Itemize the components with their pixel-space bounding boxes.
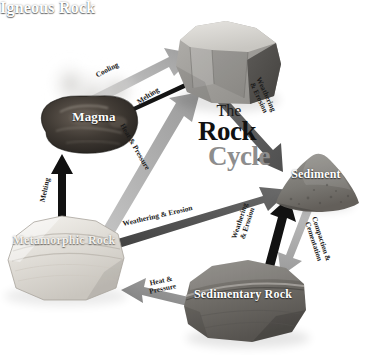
node-magma	[41, 57, 140, 153]
node-layer	[0, 0, 369, 355]
node-metamorphic-rock	[4, 216, 128, 306]
rock-cycle-diagram: Igneous Rock Magma Sediment Metamorphic …	[0, 0, 369, 355]
node-sediment	[274, 154, 359, 212]
node-sedimentary-rock	[184, 260, 310, 348]
node-igneous-rock	[176, 21, 281, 112]
